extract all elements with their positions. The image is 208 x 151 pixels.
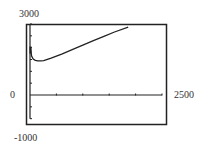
- plot-area: [0, 0, 208, 151]
- data-curve: [30, 27, 128, 61]
- axes: [30, 24, 162, 119]
